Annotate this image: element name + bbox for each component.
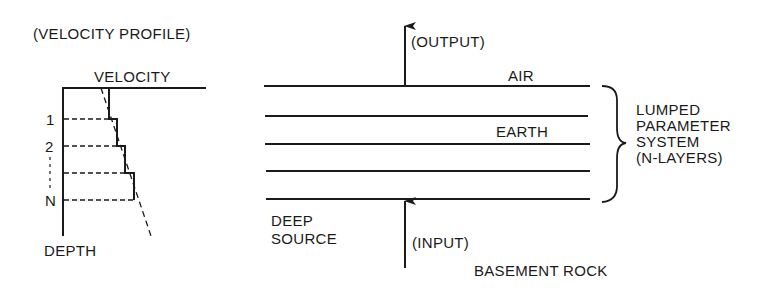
system-label-line1: LUMPED [636, 102, 700, 118]
layer-label-n: N [45, 193, 56, 209]
layer-label-2: 2 [45, 139, 54, 155]
system-label-line3: SYSTEM [636, 134, 699, 150]
input-label: (INPUT) [412, 235, 469, 251]
air-label: AIR [508, 68, 534, 84]
curly-brace [602, 86, 626, 202]
velocity-profile-title: (VELOCITY PROFILE) [33, 26, 191, 42]
deep-source-label-line1: DEEP [271, 213, 313, 229]
earth-label: EARTH [496, 124, 548, 140]
layer-label-1: 1 [46, 112, 55, 128]
depth-axis-label: DEPTH [44, 243, 96, 259]
velocity-profile-plot [50, 88, 206, 236]
system-label-line4: (N-LAYERS) [636, 150, 723, 166]
basement-rock-label: BASEMENT ROCK [474, 263, 608, 279]
velocity-axis-label: VELOCITY [94, 69, 171, 85]
output-label: (OUTPUT) [411, 34, 485, 50]
stepped-velocity-profile [109, 88, 134, 200]
deep-source-label-line2: SOURCE [271, 231, 337, 247]
system-label-line2: PARAMETER [636, 118, 731, 134]
